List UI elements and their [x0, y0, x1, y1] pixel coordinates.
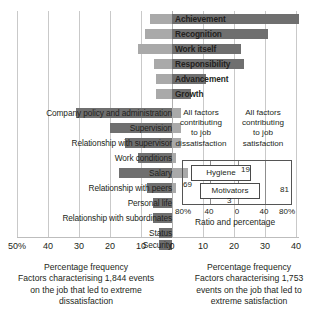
inset-summary-chart: All factors contributing to job dissatis… — [171, 108, 299, 238]
inset-heading-dissatisfaction-line3: to job — [191, 128, 211, 137]
inset-plot-box: Hygiene Motivators 69 19 3 81 — [182, 160, 292, 205]
caption-right-line4: extreme satisfaction — [211, 296, 287, 306]
category-label-personal-life: Personal life — [128, 198, 172, 208]
caption-right-line2: Factors characterising 1,753 — [195, 273, 303, 283]
caption-right-line3: events on the job that led to — [196, 285, 302, 295]
bar-row-growth: Growth — [17, 89, 299, 99]
inset-heading-satisfaction-line3: to job — [253, 128, 273, 137]
caption-left: Percentage frequency Factors characteris… — [6, 262, 166, 308]
inset-heading-dissatisfaction: All factors contributing to job dissatis… — [171, 108, 231, 149]
x-tick-0: 0 — [158, 241, 186, 252]
bar-row-responsibility: Responsibility — [17, 59, 299, 69]
caption-left-line1: Percentage frequency — [44, 262, 128, 272]
inset-gridline-pos40 — [265, 161, 266, 204]
bar-advancement-negative — [156, 74, 172, 84]
inset-heading-satisfaction: All factors contributing to job satisfac… — [233, 108, 293, 149]
bar-row-work-itself: Work itself — [17, 44, 299, 54]
inset-tick-pos80: 80% — [275, 207, 299, 216]
caption-left-line4: dissatisfaction — [59, 296, 113, 306]
bar-achievement-negative — [150, 14, 172, 24]
caption-left-line3: on the job that led to extreme — [30, 285, 141, 295]
inset-value-hygiene-satisfaction: 19 — [241, 165, 250, 174]
caption-right: Percentage frequency Factors characteris… — [170, 262, 328, 308]
x-tick-30-right: 30 — [251, 241, 279, 252]
x-tick-20-left: 20 — [96, 241, 124, 252]
category-label-recognition: Recognition — [175, 29, 222, 39]
inset-value-motivators-dissatisfaction: 3 — [227, 196, 231, 205]
category-label-supervision: Supervision — [130, 123, 172, 133]
category-label-achievement: Achievement — [175, 14, 226, 24]
category-label-growth: Growth — [175, 89, 203, 99]
bar-responsibility-negative — [154, 59, 172, 69]
inset-tick-zero: 0 — [226, 207, 248, 216]
category-label-relationship-peers: Relationship with peers — [89, 183, 172, 193]
inset-heading-satisfaction-line1: All factors — [245, 108, 281, 117]
inset-heading-dissatisfaction-line1: All factors — [183, 108, 219, 117]
inset-heading-satisfaction-line4: satisfaction — [243, 139, 284, 148]
inset-heading-satisfaction-line2: contributing — [242, 118, 284, 127]
inset-heading-dissatisfaction-line4: dissatisfaction — [176, 139, 227, 148]
x-tick-20-right: 20 — [220, 241, 248, 252]
category-label-work-itself: Work itself — [175, 44, 216, 54]
x-tick-40-left: 40 — [34, 241, 62, 252]
bar-recognition-negative — [145, 29, 172, 39]
x-tick-50pct: 50% — [3, 241, 31, 252]
inset-value-hygiene-dissatisfaction: 69 — [183, 180, 192, 189]
inset-tick-neg80: 80% — [171, 207, 195, 216]
category-label-salary: Salary — [149, 168, 172, 178]
x-tick-30-left: 30 — [65, 241, 93, 252]
bar-growth-negative — [156, 89, 172, 99]
x-tick-10-left: 10 — [127, 241, 155, 252]
inset-value-motivators-satisfaction: 81 — [280, 185, 289, 194]
category-label-responsibility: Responsibility — [175, 59, 230, 69]
bar-row-achievement: Achievement — [17, 14, 299, 24]
bar-row-advancement: Advancement — [17, 74, 299, 84]
category-label-relationship-subordinates: Relationship with subordinates — [62, 213, 172, 223]
category-label-advancement: Advancement — [175, 74, 228, 84]
x-tick-40-right: 40 — [282, 241, 310, 252]
bar-work-itself-negative — [138, 44, 172, 54]
caption-left-line2: Factors characterising 1,844 events — [18, 273, 154, 283]
category-label-company-policy: Company policy and administration — [46, 108, 172, 118]
x-tick-10-right: 10 — [189, 241, 217, 252]
caption-right-line1: Percentage frequency — [207, 262, 291, 272]
category-label-relationship-supervisor: Relationship with supervisor — [72, 138, 173, 148]
inset-heading-dissatisfaction-line2: contributing — [180, 118, 222, 127]
category-label-work-conditions: Work conditions — [115, 153, 172, 163]
bar-row-recognition: Recognition — [17, 29, 299, 39]
category-label-status: Status — [149, 228, 172, 238]
inset-axis-label: Ratio and percentage — [171, 217, 299, 227]
inset-tick-pos40: 40 — [253, 207, 275, 216]
inset-tick-neg40: 40 — [198, 207, 220, 216]
